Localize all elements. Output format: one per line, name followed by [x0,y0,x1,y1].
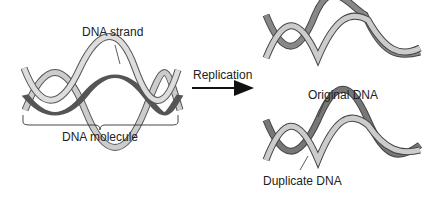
duplicate-dna-pointer [300,156,308,170]
dna-molecule-label: DNA molecule [62,130,138,144]
dna-strand-pointer [115,45,120,64]
original-dna-label: Original DNA [308,88,378,102]
duplicate-dna-label: Duplicate DNA [263,174,342,188]
dna-strand-label: DNA strand [82,25,143,39]
replication-label: Replication [193,68,252,82]
top-dna-helix [266,0,420,58]
